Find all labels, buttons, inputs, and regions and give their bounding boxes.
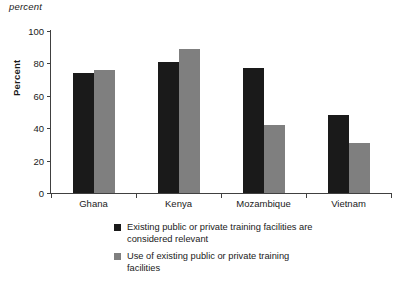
bar [158, 62, 179, 193]
y-axis-title: Percent [11, 82, 22, 96]
x-axis-tick-mark [51, 193, 52, 198]
x-axis-tick-mark [391, 193, 392, 198]
bar [73, 73, 94, 193]
y-axis-tick-mark [47, 96, 51, 97]
y-axis-tick-mark [47, 63, 51, 64]
x-axis-tick-mark [221, 193, 222, 198]
bar [328, 115, 349, 193]
bar [264, 125, 285, 193]
y-axis-tick-label: 80 [33, 58, 44, 69]
bar [243, 68, 264, 193]
bar [179, 49, 200, 193]
y-axis-tick-label: 20 [33, 155, 44, 166]
x-axis-category-label: Kenya [165, 198, 192, 209]
y-axis-tick-mark [47, 128, 51, 129]
legend-label-line: considered relevant [127, 234, 208, 244]
bar [94, 70, 115, 193]
legend-label-line: Existing public or private training faci… [127, 222, 313, 232]
legend-label-line: Use of existing public or private traini… [127, 251, 289, 261]
plot-area: 020406080100 [51, 31, 391, 193]
x-axis-category-label: Mozambique [236, 198, 290, 209]
y-axis-tick-label: 60 [33, 90, 44, 101]
legend-item: Existing public or private training faci… [114, 222, 374, 245]
legend-label: Use of existing public or private traini… [127, 251, 289, 274]
dark-square-swatch [114, 224, 121, 231]
y-axis-tick-label: 100 [28, 26, 44, 37]
y-axis-tick-mark [47, 31, 51, 32]
bar [349, 143, 370, 193]
chart-legend: Existing public or private training faci… [114, 222, 374, 280]
y-axis-tick-mark [47, 161, 51, 162]
x-axis-tick-mark [306, 193, 307, 198]
gray-square-swatch [114, 253, 121, 260]
unit-caption: percent [9, 1, 42, 12]
x-axis-category-label: Vietnam [331, 198, 366, 209]
y-axis-tick-label: 0 [39, 188, 44, 199]
x-axis-tick-mark [136, 193, 137, 198]
x-axis-category-label: Ghana [79, 198, 108, 209]
legend-label-line: facilities [127, 263, 160, 273]
legend-label: Existing public or private training faci… [127, 222, 313, 245]
bar-chart-figure: percent Percent 020406080100 GhanaKenyaM… [0, 0, 411, 289]
y-axis-tick-label: 40 [33, 123, 44, 134]
legend-item: Use of existing public or private traini… [114, 251, 374, 274]
